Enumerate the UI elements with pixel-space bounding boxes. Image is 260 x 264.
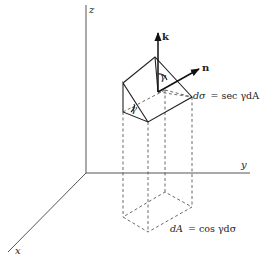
x-axis-label: x [15,245,21,256]
gamma-angle-side: γ [131,103,137,114]
surface-element-equation: dσ = sec γdA [193,90,259,101]
coordinate-axes: z y x [8,4,250,256]
angle-marks: γ γ [131,71,167,114]
x-axis [8,173,86,252]
z-axis-label: z [88,4,95,15]
n-vector-label: n [202,62,210,73]
k-vector-label: k [162,31,170,42]
gamma-angle-top: γ [160,71,166,82]
projected-area-equation: dA = cos γdσ [170,223,237,234]
y-axis-label: y [240,159,247,170]
vectors: k n [158,31,210,92]
surface-projection-diagram: z y x k n γ γ dσ = sec γ [0,0,260,264]
